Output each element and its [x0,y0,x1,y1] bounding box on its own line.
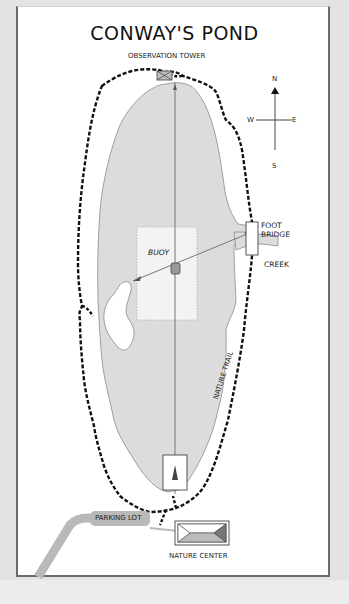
pond-map [0,0,349,604]
compass-east: E [292,116,296,125]
path-parking-to-center [150,528,178,531]
label-observation-tower: OBSERVATION TOWER [128,52,205,61]
compass-south: S [272,162,276,171]
foot-bridge-icon [246,222,258,255]
compass-rose [256,87,292,150]
label-foot-bridge-1: FOOT [261,221,282,230]
label-foot-bridge-2: BRIDGE [261,230,290,239]
north-arrow-icon [271,87,279,94]
label-creek: CREEK [264,260,289,269]
buoy-zone [137,227,197,320]
buoy-icon [171,263,180,274]
compass-north: N [272,75,277,84]
trail-spur-dock [173,496,176,508]
compass-west: W [247,116,254,125]
label-buoy: BUOY [148,248,169,257]
map-title: CONWAY'S POND [0,22,349,44]
trail-spur-island [82,306,93,316]
access-road [38,518,118,577]
label-parking-lot: PARKING LOT [95,514,141,523]
label-nature-center: NATURE CENTER [169,552,228,561]
